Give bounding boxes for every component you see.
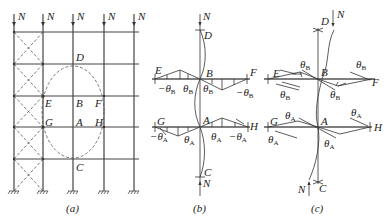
node-label-f: F	[94, 97, 102, 109]
node-label-c: C	[76, 161, 84, 173]
bottom-load-label: N	[297, 183, 306, 195]
node-label-a: A	[320, 115, 328, 127]
node-label-c: C	[319, 182, 327, 194]
svg-text:θA: θA	[211, 130, 221, 144]
node-label-d: D	[75, 51, 84, 63]
node-label-a: A	[202, 114, 210, 126]
node-label-f: F	[371, 76, 379, 88]
node-label-b: B	[321, 66, 328, 78]
svg-text:θB: θB	[183, 82, 193, 96]
load-label-n1: N	[17, 10, 26, 22]
load-arrows	[12, 22, 136, 26]
rotation-labels-lower: −θA θA θA −θA	[150, 130, 247, 147]
rotation-labels-upper: −θB θB θB −θB	[158, 82, 254, 100]
top-load-label: N	[336, 8, 345, 20]
panel-caption-b: (b)	[193, 202, 206, 215]
node-label-g: G	[45, 116, 53, 128]
rotation-labels-upper: θB θB θB θB	[280, 58, 366, 102]
panel-caption-a: (a)	[66, 202, 79, 215]
node-label-b: B	[76, 97, 83, 109]
node-label-e: E	[44, 97, 52, 109]
panel-c-subassembly: N D E B F G A H C N θB θB θB θB θA θA θA…	[264, 8, 383, 215]
svg-text:θB: θB	[356, 58, 366, 72]
rotation-labels-lower: θA θA θA θA	[268, 106, 361, 151]
load-label-n5: N	[137, 10, 146, 22]
svg-text:θB: θB	[203, 82, 213, 96]
node-label-h: H	[373, 121, 383, 133]
svg-text:θB: θB	[280, 88, 290, 102]
node-label-h: H	[94, 116, 104, 128]
svg-text:−θB: −θB	[158, 82, 176, 96]
load-label-n4: N	[107, 10, 116, 22]
node-label-d: D	[320, 15, 329, 27]
node-label-d: D	[203, 29, 212, 41]
fixed-supports	[8, 191, 139, 194]
node-label-f: F	[249, 66, 257, 78]
frame-buckling-figure: N N N N N D E B F G A H C (a)	[0, 0, 387, 222]
svg-text:−θA: −θA	[229, 130, 247, 144]
node-label-e: E	[154, 64, 162, 76]
svg-text:−θA: −θA	[150, 130, 168, 144]
svg-text:−θB: −θB	[236, 86, 254, 100]
svg-text:θB: θB	[330, 88, 340, 102]
panel-b-subassembly: N D E B F G A H C N −θB θB θB −θB −θA θA…	[150, 10, 259, 215]
bracing	[14, 32, 43, 191]
node-label-a: A	[75, 116, 83, 128]
node-label-g: G	[157, 115, 165, 127]
top-load-label: N	[202, 10, 211, 22]
node-label-e: E	[272, 67, 280, 79]
panel-a-frame: N N N N N D E B F G A H C (a)	[8, 10, 146, 215]
node-label-b: B	[206, 67, 213, 79]
node-label-g: G	[270, 115, 278, 127]
bottom-load-label: N	[202, 177, 211, 189]
node-label-h: H	[249, 120, 259, 132]
svg-text:θB: θB	[300, 58, 310, 72]
svg-text:θA: θA	[184, 133, 194, 147]
svg-text:θA: θA	[285, 109, 295, 123]
load-label-n2: N	[46, 10, 55, 22]
svg-text:θA: θA	[351, 106, 361, 120]
svg-text:θA: θA	[268, 133, 278, 147]
panel-caption-c: (c)	[311, 202, 324, 215]
load-label-n3: N	[76, 10, 85, 22]
columns	[14, 14, 134, 191]
svg-text:θA: θA	[324, 137, 334, 151]
